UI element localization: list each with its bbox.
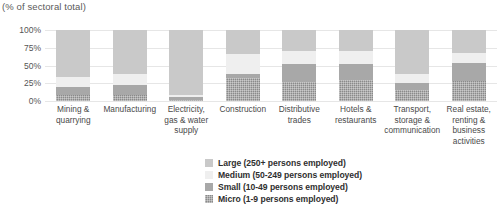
bar-segment-medium[interactable] bbox=[56, 77, 90, 87]
bar-segment-large[interactable] bbox=[452, 30, 486, 53]
y-axis-tick-50: 50% bbox=[0, 61, 41, 71]
bar-segment-large[interactable] bbox=[113, 30, 147, 74]
gridline-0 bbox=[45, 101, 497, 102]
bar-column[interactable] bbox=[452, 30, 486, 101]
x-axis-category-label-line: supply bbox=[158, 125, 214, 136]
bar-segment-medium[interactable] bbox=[395, 74, 429, 83]
bar-segment-micro[interactable] bbox=[113, 95, 147, 101]
bar-segment-small[interactable] bbox=[226, 74, 260, 78]
x-axis-category-label-line: restaurants bbox=[328, 115, 384, 126]
x-axis-category-label-line: activities bbox=[441, 136, 497, 147]
bar-segment-large[interactable] bbox=[282, 30, 316, 51]
legend-label: Micro (1-9 persons employed) bbox=[218, 194, 338, 204]
x-axis-category-label: Distributivetrades bbox=[271, 104, 327, 125]
bar-segment-small[interactable] bbox=[339, 64, 373, 80]
bar-segment-micro[interactable] bbox=[339, 80, 373, 101]
x-axis-category-label-line: business bbox=[441, 125, 497, 136]
x-axis-category-label: Hotels &restaurants bbox=[328, 104, 384, 125]
bar-column[interactable] bbox=[282, 30, 316, 101]
x-axis-category-label-line: Distributive bbox=[271, 104, 327, 115]
x-axis-category-label-line: Manufacturing bbox=[102, 104, 158, 115]
legend-item[interactable]: Small (10-49 persons employed) bbox=[205, 181, 495, 193]
bar-segment-large[interactable] bbox=[56, 30, 90, 77]
bar-segment-micro[interactable] bbox=[56, 95, 90, 101]
bar-segment-large[interactable] bbox=[339, 30, 373, 51]
bar-column[interactable] bbox=[113, 30, 147, 101]
x-axis-category-label-line: Transport, bbox=[384, 104, 440, 115]
x-axis: Mining &quarryingManufacturingElectricit… bbox=[45, 104, 497, 162]
y-axis-tick-75: 75% bbox=[0, 43, 41, 53]
bar-segment-small[interactable] bbox=[282, 64, 316, 82]
x-axis-category-label: Construction bbox=[215, 104, 271, 115]
x-axis-category-label: Manufacturing bbox=[102, 104, 158, 115]
legend-swatch-icon bbox=[205, 183, 213, 191]
y-axis-tick-25: 25% bbox=[0, 78, 41, 88]
x-axis-category-label-line: quarrying bbox=[45, 115, 101, 126]
plot-area bbox=[45, 30, 497, 101]
bar-segment-medium[interactable] bbox=[282, 51, 316, 64]
legend-swatch-icon bbox=[205, 195, 213, 203]
legend-item[interactable]: Medium (50-249 persons employed) bbox=[205, 169, 495, 181]
x-axis-category-label: Real estate,renting &businessactivities bbox=[441, 104, 497, 146]
bar-segment-micro[interactable] bbox=[452, 81, 486, 101]
bar-segment-large[interactable] bbox=[169, 30, 203, 95]
x-axis-category-label-line: Hotels & bbox=[328, 104, 384, 115]
bar-segment-large[interactable] bbox=[395, 30, 429, 74]
bar-segment-micro[interactable] bbox=[395, 90, 429, 101]
bar-segment-micro[interactable] bbox=[169, 100, 203, 101]
x-axis-category-label-line: Mining & bbox=[45, 104, 101, 115]
bar-segment-micro[interactable] bbox=[226, 78, 260, 101]
x-axis-category-label-line: Real estate, bbox=[441, 104, 497, 115]
x-axis-category-label: Transport,storage &communication bbox=[384, 104, 440, 136]
legend-label: Medium (50-249 persons employed) bbox=[218, 170, 362, 180]
bar-segment-small[interactable] bbox=[56, 87, 90, 95]
bar-segment-medium[interactable] bbox=[226, 54, 260, 74]
x-axis-category-label-line: renting & bbox=[441, 115, 497, 126]
legend-item[interactable]: Large (250+ persons employed) bbox=[205, 157, 495, 169]
legend-label: Small (10-49 persons employed) bbox=[218, 182, 348, 192]
bar-column[interactable] bbox=[395, 30, 429, 101]
bar-segment-medium[interactable] bbox=[113, 74, 147, 85]
x-axis-category-label-line: storage & bbox=[384, 115, 440, 126]
x-axis-category-label-line: Construction bbox=[215, 104, 271, 115]
bar-segment-small[interactable] bbox=[395, 83, 429, 90]
legend-label: Large (250+ persons employed) bbox=[218, 158, 346, 168]
y-axis-tick-0: 0% bbox=[0, 96, 41, 106]
x-axis-category-label: Mining &quarrying bbox=[45, 104, 101, 125]
bar-segment-small[interactable] bbox=[452, 63, 486, 81]
chart-legend: Large (250+ persons employed)Medium (50-… bbox=[205, 157, 495, 205]
chart-subtitle: (% of sectoral total) bbox=[2, 1, 86, 12]
bar-segment-small[interactable] bbox=[169, 97, 203, 99]
bar-segment-medium[interactable] bbox=[169, 95, 203, 98]
x-axis-category-label-line: Electricity, bbox=[158, 104, 214, 115]
bar-segment-medium[interactable] bbox=[452, 53, 486, 63]
bar-segment-micro[interactable] bbox=[282, 82, 316, 101]
bar-column[interactable] bbox=[339, 30, 373, 101]
legend-item[interactable]: Micro (1-9 persons employed) bbox=[205, 193, 495, 205]
y-axis-tick-100: 100% bbox=[0, 25, 41, 35]
x-axis-category-label-line: trades bbox=[271, 115, 327, 126]
x-axis-category-label-line: gas & water bbox=[158, 115, 214, 126]
bar-column[interactable] bbox=[169, 30, 203, 101]
bar-column[interactable] bbox=[56, 30, 90, 101]
x-axis-category-label-line: communication bbox=[384, 125, 440, 136]
x-axis-category-label: Electricity,gas & watersupply bbox=[158, 104, 214, 136]
y-axis: 0%25%50%75%100% bbox=[0, 24, 41, 108]
legend-swatch-icon bbox=[205, 159, 213, 167]
bar-segment-medium[interactable] bbox=[339, 51, 373, 64]
legend-swatch-icon bbox=[205, 171, 213, 179]
bar-column[interactable] bbox=[226, 30, 260, 101]
bar-segment-large[interactable] bbox=[226, 30, 260, 54]
bar-segment-small[interactable] bbox=[113, 85, 147, 94]
